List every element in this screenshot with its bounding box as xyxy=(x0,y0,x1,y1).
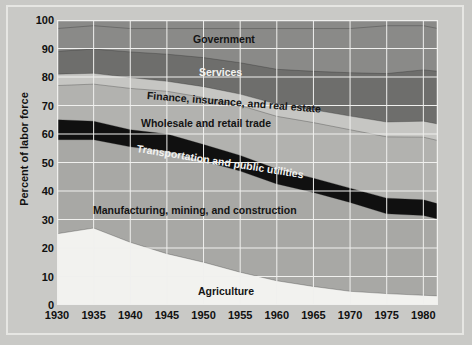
x-tick-1950: 1950 xyxy=(191,309,215,321)
x-tick-1970: 1970 xyxy=(338,309,362,321)
y-tick-70: 70 xyxy=(20,101,54,112)
x-tick-1945: 1945 xyxy=(155,309,179,321)
y-tick-80: 80 xyxy=(20,72,54,83)
x-tick-1935: 1935 xyxy=(81,309,105,321)
figure: Percent of labor force 10090807060504030… xyxy=(0,0,472,345)
x-tick-1965: 1965 xyxy=(301,309,325,321)
y-axis-ticks: 1009080706050403020100 xyxy=(14,0,54,345)
y-tick-90: 90 xyxy=(20,44,54,55)
y-tick-20: 20 xyxy=(20,243,54,254)
x-tick-1960: 1960 xyxy=(265,309,289,321)
y-tick-10: 10 xyxy=(20,272,54,283)
plot-area: Government Services Finance, insurance, … xyxy=(57,20,438,305)
x-tick-1980: 1980 xyxy=(411,309,435,321)
y-tick-60: 60 xyxy=(20,129,54,140)
y-tick-40: 40 xyxy=(20,186,54,197)
stacked-area-chart xyxy=(57,20,438,305)
x-tick-1940: 1940 xyxy=(118,309,142,321)
x-tick-1930: 1930 xyxy=(45,309,69,321)
y-tick-50: 50 xyxy=(20,158,54,169)
y-tick-100: 100 xyxy=(20,15,54,26)
y-tick-30: 30 xyxy=(20,215,54,226)
x-axis-ticks: 1930193519401945195019551960196519701975… xyxy=(0,309,472,329)
x-tick-1975: 1975 xyxy=(374,309,398,321)
x-tick-1955: 1955 xyxy=(228,309,252,321)
